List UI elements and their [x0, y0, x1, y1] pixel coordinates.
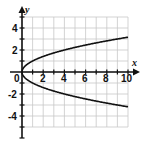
- y-tick-label: -4: [8, 111, 17, 122]
- plot-area: y x 0 2 4 6 8 10 4 2 -2 -4: [0, 0, 146, 144]
- y-tick-label: -2: [8, 89, 17, 100]
- x-axis-label: x: [131, 57, 137, 68]
- origin-label: 0: [14, 73, 20, 84]
- axis-ticks: [20, 17, 129, 138]
- x-tick-label: 4: [61, 73, 67, 84]
- x-tick-label: 8: [103, 73, 109, 84]
- x-tick-label: 10: [121, 73, 133, 84]
- x-tick-label: 2: [40, 73, 46, 84]
- x-axis-arrow-icon: [133, 69, 140, 76]
- y-tick-label: 4: [12, 23, 18, 34]
- y-tick-label: 2: [12, 45, 18, 56]
- x-tick-label: 6: [82, 73, 88, 84]
- y-axis-label: y: [24, 4, 30, 15]
- chart: y x 0 2 4 6 8 10 4 2 -2 -4: [0, 0, 146, 144]
